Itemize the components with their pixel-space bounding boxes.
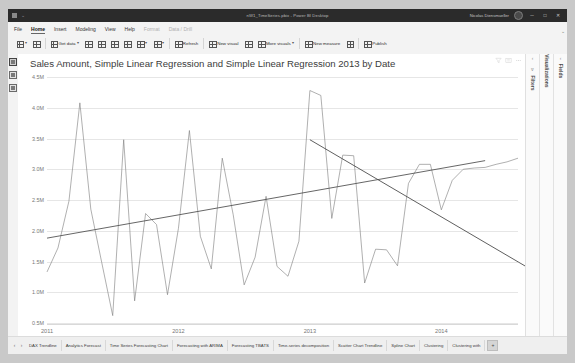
ribbon-command-label: Refresh <box>183 41 198 46</box>
ribbon-command-label: New measure <box>313 41 340 46</box>
page-tab-scatter-chart-trendline[interactable]: Scatter Chart Trendline <box>334 340 387 351</box>
more-options-icon[interactable] <box>515 57 522 64</box>
page-tabs: DAX TrendlineAnalytics ForecastTime Seri… <box>25 340 485 351</box>
page-tab-analytics-forecast[interactable]: Analytics Forecast <box>62 340 106 351</box>
new-measure-icon <box>305 40 312 47</box>
chevron-down-icon[interactable]: ▾ <box>25 42 27 46</box>
line-chart-visual[interactable]: Sales Amount, Simple Linear Regression a… <box>22 56 524 335</box>
ribbon-tab-modeling[interactable]: Modeling <box>75 26 95 32</box>
add-page-button[interactable]: + <box>487 340 498 351</box>
ribbon-tab-file[interactable]: File <box>14 26 22 32</box>
publish-icon <box>364 40 371 47</box>
chart-title: Sales Amount, Simple Linear Regression a… <box>30 58 395 69</box>
model-view-icon[interactable] <box>9 84 17 92</box>
chevron-down-icon[interactable]: ▾ <box>77 42 79 46</box>
page-tab-clustering[interactable]: Clustering <box>420 340 448 351</box>
ribbon-commands: ▾Get data▾▾▾RefreshNew visualMore visual… <box>8 35 567 52</box>
ribbon-command-dataverse[interactable]: ▾ <box>134 37 151 51</box>
ribbon-separator <box>299 38 300 49</box>
ribbon-tab-home[interactable]: Home <box>31 26 45 32</box>
chevron-down-icon[interactable]: ▾ <box>162 42 164 46</box>
ribbon-command-refresh[interactable]: Refresh <box>171 37 201 51</box>
chevron-down-icon[interactable]: ▾ <box>292 42 294 46</box>
ribbon-command-label: More visuals <box>266 41 291 46</box>
page-tab-spline-chart[interactable]: Spline Chart <box>387 340 420 351</box>
ribbon-separator <box>203 38 204 49</box>
expand-pane-icon[interactable]: ‹ <box>532 56 534 61</box>
ribbon-tab-format[interactable]: Format <box>144 26 160 32</box>
ribbon-command-format-painter[interactable] <box>30 37 43 51</box>
data-view-icon[interactable] <box>9 71 17 79</box>
next-page-button[interactable]: › <box>18 343 25 348</box>
filter-icon: ∇ <box>531 67 534 72</box>
ribbon-command-quick-measure[interactable] <box>343 37 356 51</box>
ribbon-command-enter-data[interactable] <box>121 37 134 51</box>
window-title: nW1_TimeSeries.pbix - Power BI Desktop <box>8 13 567 18</box>
ribbon-separator <box>358 38 359 49</box>
ribbon-command-text-box[interactable] <box>241 37 254 51</box>
chart-series-layer <box>22 73 520 335</box>
ribbon: FileHomeInsertModelingViewHelpFormatData… <box>8 22 567 55</box>
expand-pane-icon[interactable]: ‹ <box>560 56 562 61</box>
series-line[interactable] <box>47 91 518 316</box>
ribbon-tab-help[interactable]: Help <box>125 26 135 32</box>
ribbon-tab-insert[interactable]: Insert <box>54 26 67 32</box>
title-bar: ⌄ nW1_TimeSeries.pbix - Power BI Desktop… <box>8 9 567 22</box>
transform-data-icon <box>153 40 160 47</box>
series-line[interactable] <box>310 140 529 269</box>
pane-label: Filters <box>530 75 536 90</box>
ribbon-command-publish[interactable]: Publish <box>361 37 390 51</box>
dataverse-icon <box>137 40 144 47</box>
more-visuals-icon <box>257 40 264 47</box>
series-line[interactable] <box>47 161 485 238</box>
paste-icon <box>16 40 23 47</box>
sql-server-icon <box>111 40 118 47</box>
ribbon-command-new-measure[interactable]: New measure <box>302 37 344 51</box>
pane-fields[interactable]: ‹Fields <box>553 54 567 337</box>
ribbon-command-powerbi-datasets[interactable] <box>95 37 108 51</box>
page-tab-bar: ‹ › DAX TrendlineAnalytics ForecastTime … <box>8 336 567 354</box>
ribbon-command-excel[interactable] <box>82 37 95 51</box>
ribbon-command-paste[interactable]: ▾ <box>13 37 30 51</box>
excel-icon <box>85 40 92 47</box>
filter-icon[interactable] <box>495 57 502 64</box>
right-panels: ‹∇Filters‹Visualizations‹Fields <box>525 54 567 337</box>
ribbon-command-get-data[interactable]: Get data▾ <box>47 37 82 51</box>
visual-header <box>495 57 522 64</box>
page-tab-time-series-forecasting-chart[interactable]: Time Series Forecasting Chart <box>106 340 173 351</box>
focus-mode-icon[interactable] <box>505 57 512 64</box>
ribbon-collapse-icon[interactable]: ⌄ <box>561 28 565 34</box>
ribbon-command-sql-server[interactable] <box>108 37 121 51</box>
ribbon-separator <box>45 38 46 49</box>
page-tab-clustering-with[interactable]: Clustering with <box>448 340 485 351</box>
format-painter-icon <box>33 40 40 47</box>
report-canvas[interactable]: Sales Amount, Simple Linear Regression a… <box>18 54 526 337</box>
pane-filters[interactable]: ‹∇Filters <box>526 54 539 337</box>
report-view-icon[interactable] <box>9 58 17 66</box>
chevron-down-icon[interactable]: ▾ <box>145 42 147 46</box>
prev-page-button[interactable]: ‹ <box>11 343 18 348</box>
powerbi-datasets-icon <box>98 40 105 47</box>
refresh-icon <box>174 40 181 47</box>
ribbon-command-new-visual[interactable]: New visual <box>206 37 242 51</box>
pane-visualizations[interactable]: ‹Visualizations <box>539 54 553 337</box>
ribbon-tab-view[interactable]: View <box>105 26 116 32</box>
page-tab-forecasting-tbats[interactable]: Forecasting TBATS <box>228 340 274 351</box>
page-tab-time-series-decomposition[interactable]: Time-series decomposition <box>274 340 334 351</box>
ribbon-tabs: FileHomeInsertModelingViewHelpFormatData… <box>8 22 567 35</box>
pane-label: Fields <box>558 64 564 78</box>
ribbon-tab-data-drill[interactable]: Data / Drill <box>169 26 192 32</box>
new-visual-icon <box>209 40 216 47</box>
ribbon-command-transform-data[interactable]: ▾ <box>150 37 167 51</box>
power-bi-desktop-window: ⌄ nW1_TimeSeries.pbix - Power BI Desktop… <box>0 0 575 363</box>
pane-label: Visualizations <box>544 54 550 87</box>
page-tab-dax-trendline[interactable]: DAX Trendline <box>25 340 62 351</box>
page-tab-forecasting-with-arima[interactable]: Forecasting with ARIMA <box>173 340 228 351</box>
ribbon-command-label: New visual <box>217 41 238 46</box>
ribbon-command-more-visuals[interactable]: More visuals▾ <box>254 37 297 51</box>
ribbon-command-label: Get data <box>59 41 76 46</box>
plot-area[interactable]: 4.5M4.0M3.5M3.0M2.5M2.0M1.5M1.0M0.5M2011… <box>22 73 520 335</box>
text-box-icon <box>244 40 251 47</box>
get-data-icon <box>50 40 57 47</box>
quick-measure-icon <box>346 40 353 47</box>
